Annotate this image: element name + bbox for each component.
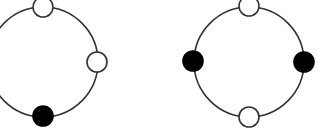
ring-diagram [0, 0, 318, 132]
empty-node-bottom [239, 107, 259, 127]
filled-node-left [183, 51, 203, 71]
empty-node-top [239, 0, 259, 16]
empty-node-right [87, 52, 107, 72]
filled-node-right [294, 52, 314, 72]
ring-circle [194, 7, 304, 117]
ring-circle [0, 7, 98, 117]
filled-node-bottom [33, 106, 53, 126]
ring-left [0, 0, 107, 126]
empty-node-top [33, 0, 53, 17]
ring-right [183, 0, 314, 127]
